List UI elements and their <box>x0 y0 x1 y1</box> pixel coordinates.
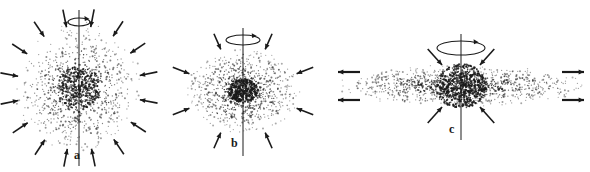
collapse-stages-figure: a b c <box>0 0 590 172</box>
panel-label-a: a <box>74 149 80 161</box>
infall-arrow <box>480 107 494 123</box>
panel-label-c: c <box>449 123 454 135</box>
outflow-arrow <box>562 98 584 103</box>
panel-c <box>0 0 590 172</box>
outflow-arrow <box>562 70 584 75</box>
stipple-cloud <box>341 63 582 108</box>
outflow-arrow <box>338 70 360 75</box>
infall-arrow <box>428 107 442 123</box>
panel-label-b: b <box>231 137 238 149</box>
panel-canvas-c <box>0 0 590 172</box>
outflow-arrow <box>338 98 360 103</box>
